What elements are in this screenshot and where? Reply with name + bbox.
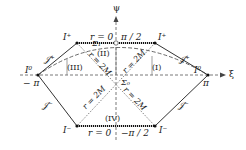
sigma1-label: Σ₁: [92, 40, 101, 48]
i0-left: I⁰: [25, 66, 32, 75]
top-value: π / 2: [121, 33, 141, 42]
region-i: (I): [152, 64, 161, 72]
minus-pi: − π: [23, 79, 39, 88]
pi: π: [203, 79, 209, 88]
i-minus-right: I⁻: [159, 126, 167, 135]
region-iv: (IV): [105, 115, 120, 123]
xi-label: ξ: [229, 70, 234, 79]
scri-plus-right: 𝒥⁺: [179, 55, 190, 64]
bottom-value: −π / 2: [121, 129, 149, 138]
i-plus-left: I⁺: [63, 33, 71, 42]
i-plus-right: I⁺: [158, 33, 166, 42]
scri-minus-left: 𝒥⁻: [42, 101, 53, 110]
scri-plus-left: 𝒥⁺: [44, 55, 55, 64]
psi-label: ψ: [113, 4, 120, 13]
bottom-singularity-label: r = 0: [88, 129, 111, 138]
i0-right: I⁰: [194, 66, 201, 75]
scri-minus-right: 𝒥⁻: [178, 101, 189, 110]
region-iii: (III): [67, 64, 83, 72]
i-minus-left: I⁻: [63, 126, 71, 135]
